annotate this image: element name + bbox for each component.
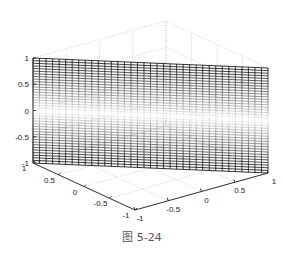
svg-text:1: 1 (22, 164, 27, 173)
figure-caption: 图 5-24 (0, 228, 284, 244)
svg-text:0: 0 (73, 188, 78, 197)
svg-text:1: 1 (272, 177, 277, 186)
mesh-surface (33, 58, 268, 173)
svg-text:-0.5: -0.5 (15, 133, 29, 142)
svg-text:0.5: 0.5 (44, 176, 56, 185)
svg-text:-0.5: -0.5 (166, 205, 180, 214)
tick-labels: -1-0.500.51-1-0.500.51-1-0.500.51 (15, 54, 277, 223)
surface-plot: -1-0.500.51-1-0.500.51-1-0.500.51 (0, 0, 284, 254)
svg-text:0.5: 0.5 (18, 80, 30, 89)
svg-text:0: 0 (204, 196, 209, 205)
svg-text:-1: -1 (122, 211, 130, 220)
svg-text:-1: -1 (136, 214, 144, 223)
svg-text:1: 1 (25, 54, 30, 63)
svg-text:0: 0 (25, 107, 30, 116)
svg-text:-0.5: -0.5 (94, 199, 108, 208)
svg-text:0.5: 0.5 (234, 186, 246, 195)
